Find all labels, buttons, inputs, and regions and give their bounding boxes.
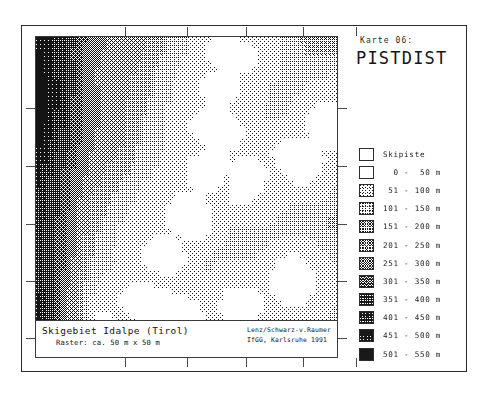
- legend-row: 251 - 300 m: [359, 254, 441, 272]
- legend-label-7: 301 - 350 m: [383, 277, 441, 286]
- caption-subtitle: Raster: ca. 50 m x 50 m: [56, 338, 189, 347]
- tick-top-4: [356, 27, 357, 36]
- tick-top-3: [303, 27, 304, 36]
- legend-row: 101 - 150 m: [359, 200, 441, 218]
- legend-row: 201 - 250 m: [359, 236, 441, 254]
- credit-institute: IfGG, Karlsruhe 1991: [247, 336, 331, 346]
- tick-bottom-0: [125, 358, 126, 367]
- legend-label-5: 201 - 250 m: [383, 241, 441, 250]
- tick-right-0: [338, 108, 347, 109]
- legend-label-0: Skipiste: [383, 150, 425, 159]
- legend-label-9: 401 - 450 m: [383, 313, 441, 322]
- legend-label-2: 51 - 100 m: [383, 186, 441, 195]
- map-number-label: Karte 06:: [360, 36, 460, 45]
- legend-row: 51 - 100 m: [359, 181, 441, 199]
- caption-credit-group: Lenz/Schwarz-v.Raumer IfGG, Karlsruhe 19…: [247, 326, 331, 346]
- legend-label-11: 501 - 550 m: [383, 350, 441, 359]
- legend-row: 151 - 200 m: [359, 218, 441, 236]
- legend-swatch-1: [359, 166, 374, 179]
- map-panel[interactable]: [35, 36, 338, 358]
- caption-left-group: Skigebiet Idalpe (Tirol) Raster: ca. 50 …: [42, 325, 189, 347]
- legend-swatch-11: [359, 348, 374, 361]
- legend-row: 401 - 450 m: [359, 309, 441, 327]
- legend-label-6: 251 - 300 m: [383, 259, 441, 268]
- tick-bottom-4: [356, 358, 357, 367]
- map-poster: Skigebiet Idalpe (Tirol) Raster: ca. 50 …: [0, 0, 483, 394]
- tick-right-2: [338, 224, 347, 225]
- legend-swatch-5: [359, 239, 374, 252]
- legend-swatch-7: [359, 275, 374, 288]
- legend-row: 501 - 550 m: [359, 345, 441, 363]
- legend-swatch-4: [359, 220, 374, 233]
- legend-row: 0 - 50 m: [359, 163, 441, 181]
- legend-label-4: 151 - 200 m: [383, 222, 441, 231]
- legend-label-8: 351 - 400 m: [383, 295, 441, 304]
- map-caption-box: Skigebiet Idalpe (Tirol) Raster: ca. 50 …: [35, 320, 338, 358]
- tick-right-3: [338, 281, 347, 282]
- tick-right-1: [338, 166, 347, 167]
- legend-row: Skipiste: [359, 145, 441, 163]
- legend-label-10: 451 - 500 m: [383, 331, 441, 340]
- tick-top-0: [125, 27, 126, 36]
- tick-bottom-2: [246, 358, 247, 367]
- legend-swatch-0: [359, 148, 374, 161]
- legend-row: 451 - 500 m: [359, 327, 441, 345]
- map-title-block: Karte 06: PISTDIST: [356, 36, 460, 68]
- legend-label-1: 0 - 50 m: [383, 168, 441, 177]
- tick-left-3: [26, 281, 35, 282]
- tick-bottom-1: [187, 358, 188, 367]
- legend-label-3: 101 - 150 m: [383, 204, 441, 213]
- legend: Skipiste 0 - 50 m 51 - 100 m101 - 150 m1…: [359, 145, 441, 363]
- legend-swatch-9: [359, 311, 374, 324]
- tick-top-1: [187, 27, 188, 36]
- map-title-label: PISTDIST: [356, 48, 460, 68]
- legend-swatch-2: [359, 184, 374, 197]
- legend-row: 351 - 400 m: [359, 291, 441, 309]
- tick-bottom-3: [303, 358, 304, 367]
- legend-swatch-10: [359, 329, 374, 342]
- tick-left-0: [26, 108, 35, 109]
- tick-left-2: [26, 224, 35, 225]
- legend-swatch-3: [359, 202, 374, 215]
- credit-authors: Lenz/Schwarz-v.Raumer: [247, 326, 331, 336]
- legend-row: 301 - 350 m: [359, 272, 441, 290]
- distance-raster-heatmap: [36, 37, 338, 358]
- caption-title: Skigebiet Idalpe (Tirol): [42, 325, 189, 336]
- tick-top-2: [246, 27, 247, 36]
- tick-left-4: [26, 338, 35, 339]
- legend-swatch-8: [359, 293, 374, 306]
- tick-left-1: [26, 166, 35, 167]
- legend-swatch-6: [359, 257, 374, 270]
- tick-right-4: [338, 338, 347, 339]
